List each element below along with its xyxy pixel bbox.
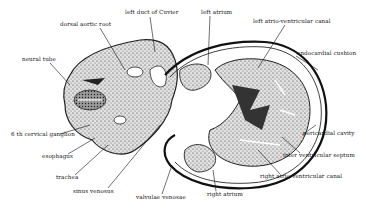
label-endocardial-cushion: endocardial cushion: [297, 51, 356, 57]
label-left-atrium: left atrium: [201, 10, 232, 16]
label-left-duct-of-cuvier: left duct of Cuvier: [125, 10, 178, 16]
left-atrium-shape: [180, 64, 211, 90]
label-dorsal-aortic-root: dorsal aortic root: [60, 22, 111, 28]
label-right-atrium: right atrium: [207, 192, 243, 198]
label-neural-tube: neural tube: [22, 57, 56, 63]
label-trachea: trachea: [56, 175, 78, 181]
label-left-atrio-ventricular-canal: left atrio-ventricular canal: [253, 19, 331, 25]
right-atrium-shape: [184, 145, 215, 172]
label-right-atrio-ventricular-canal: right atrio-ventricular canal: [260, 174, 342, 180]
label-valvulae-venosae: valvulae venosae: [136, 195, 186, 201]
label-pericardial-cavity: pericardial cavity: [303, 131, 354, 137]
embryo-section-diagram: dorsal aortic root left duct of Cuvier l…: [0, 0, 366, 210]
label-inter-ventricular-septum: inter ventricular septum: [283, 153, 355, 159]
label-esophagus: esophagus: [42, 154, 73, 160]
label-6th-cervical-ganglion: 6 th cervical ganglion: [11, 132, 75, 138]
label-sinus-venosus: sinus venosus: [73, 189, 114, 195]
